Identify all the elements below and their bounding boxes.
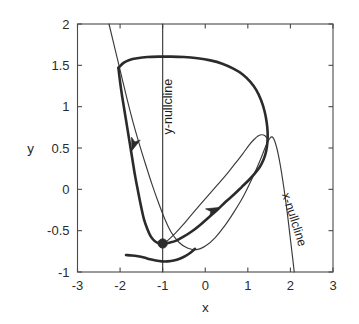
- plot-background: [0, 0, 359, 324]
- y-tick-label: 2: [62, 17, 69, 32]
- y-tick-label: -0.5: [47, 223, 69, 238]
- y-tick-label: 0: [62, 182, 69, 197]
- phase-plane-figure: -3-2-10123-1-0.500.511.52 y-nullclinex-n…: [0, 0, 359, 324]
- x-tick-label: -1: [157, 278, 169, 293]
- x-tick-label: -2: [114, 278, 126, 293]
- x-axis-title: x: [202, 300, 209, 315]
- marker-equilibrium-point: [158, 239, 167, 248]
- x-tick-label: 2: [287, 278, 294, 293]
- y-axis-title: y: [27, 141, 34, 156]
- x-tick-label: 0: [202, 278, 209, 293]
- x-tick-label: -3: [72, 278, 84, 293]
- x-tick-label: 3: [329, 278, 336, 293]
- annotation-y-nullcline-label: y-nullcline: [161, 79, 175, 135]
- y-tick-label: 1.5: [51, 58, 69, 73]
- x-tick-label: 1: [244, 278, 251, 293]
- phase-plane-plot: -3-2-10123-1-0.500.511.52 y-nullclinex-n…: [0, 0, 359, 324]
- y-tick-label: 1: [62, 99, 69, 114]
- y-tick-label: -1: [58, 265, 70, 280]
- y-tick-label: 0.5: [51, 141, 69, 156]
- marker-layer: [158, 239, 167, 248]
